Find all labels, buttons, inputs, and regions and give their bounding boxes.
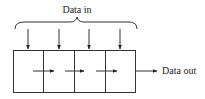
shift-register-diagram: Data in Data out: [0, 0, 205, 99]
data-in-label: Data in: [62, 4, 91, 15]
input-brace: [15, 17, 137, 29]
data-out-label: Data out: [162, 65, 196, 76]
parallel-input-arrows: [28, 29, 120, 49]
